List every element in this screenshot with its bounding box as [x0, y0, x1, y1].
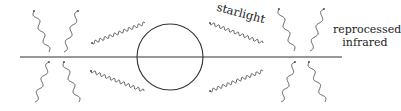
starlight-ray — [210, 70, 263, 92]
ray-endpoint-dot — [63, 61, 65, 63]
ray-endpoint-dot — [33, 10, 35, 12]
infrared-ray — [64, 11, 78, 52]
ray-endpoint-dot — [48, 61, 50, 63]
ray-group — [33, 8, 326, 102]
starlight-ray — [91, 71, 144, 91]
ray-endpoint-dot — [77, 10, 79, 12]
infrared-ray — [308, 62, 326, 102]
infrared-ray — [310, 9, 324, 51]
infrared-label-line1: reprocessed — [333, 23, 397, 36]
infrared-label-line2: infrared — [333, 36, 397, 49]
ray-endpoint-dot — [209, 22, 211, 24]
diagram-canvas — [0, 0, 401, 111]
ray-endpoint-dot — [90, 70, 92, 72]
ray-endpoint-dot — [323, 8, 325, 10]
ray-endpoint-dot — [294, 61, 296, 63]
starlight-ray — [210, 23, 263, 43]
infrared-ray — [278, 9, 295, 51]
infrared-label: reprocessed infrared — [333, 23, 397, 49]
ray-endpoint-dot — [278, 8, 280, 10]
infrared-ray — [35, 62, 49, 102]
ray-endpoint-dot — [91, 42, 93, 44]
infrared-ray — [63, 62, 80, 102]
ray-endpoint-dot — [308, 61, 310, 63]
infrared-ray — [33, 11, 50, 52]
starlight-ray — [92, 22, 145, 44]
infrared-ray — [281, 62, 295, 102]
ray-endpoint-dot — [209, 90, 211, 92]
